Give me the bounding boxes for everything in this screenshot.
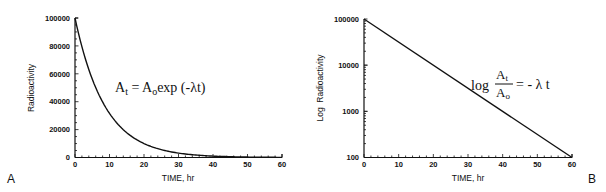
y-tick-label: 0 bbox=[66, 153, 70, 162]
x-tick-label: 40 bbox=[209, 160, 217, 169]
chart-b: 100 1000 10000 100000 0 10 20 30 40 50 6… bbox=[315, 15, 596, 187]
x-tick-label: 50 bbox=[533, 160, 541, 169]
y-axis-title-b: Log Radioactivity bbox=[315, 54, 325, 122]
x-axis-title-b: TIME, hr bbox=[452, 173, 485, 183]
y-tick-label: 100000 bbox=[45, 14, 70, 23]
svg-text:log: log bbox=[471, 78, 489, 93]
y-tick-label: 60000 bbox=[49, 70, 70, 79]
x-tick-label: 10 bbox=[395, 160, 403, 169]
x-tick-label: 60 bbox=[278, 160, 286, 169]
y-tick-label: 100000 bbox=[334, 15, 359, 24]
x-tick-label: 30 bbox=[174, 160, 182, 169]
y-tick-labels-a: 0 20000 40000 60000 80000 100000 bbox=[45, 14, 70, 162]
y-tick-label: 20000 bbox=[49, 125, 70, 134]
panel-label-a: A bbox=[7, 172, 15, 186]
x-tick-label: 50 bbox=[243, 160, 251, 169]
svg-text:At: At bbox=[496, 67, 508, 83]
y-tick-label: 1000 bbox=[342, 107, 359, 116]
x-tick-label: 0 bbox=[73, 160, 77, 169]
x-tick-label: 20 bbox=[140, 160, 148, 169]
x-tick-labels-a: 0 10 20 30 40 50 60 bbox=[73, 160, 286, 169]
panel-label-b: B bbox=[588, 172, 596, 186]
y-tick-label: 10000 bbox=[338, 61, 359, 70]
chart-a: 0 20000 40000 60000 80000 100000 0 10 20… bbox=[7, 14, 286, 186]
y-axis-title-a: Radioactivity bbox=[26, 63, 36, 112]
equation-b: log At Ao = - λ t bbox=[471, 67, 550, 101]
equation-a: At = Aoexp (-λt) bbox=[115, 80, 206, 97]
svg-text:Ao: Ao bbox=[496, 85, 510, 101]
x-tick-label: 30 bbox=[464, 160, 472, 169]
x-tick-label: 60 bbox=[568, 160, 576, 169]
figure: 0 20000 40000 60000 80000 100000 0 10 20… bbox=[0, 0, 606, 192]
x-tick-label: 10 bbox=[105, 160, 113, 169]
x-tick-label: 40 bbox=[499, 160, 507, 169]
x-tick-labels-b: 0 10 20 30 40 50 60 bbox=[362, 160, 576, 169]
y-tick-labels-b: 100 1000 10000 100000 bbox=[334, 15, 359, 163]
svg-text:= - λ t: = - λ t bbox=[516, 77, 550, 92]
y-tick-label: 40000 bbox=[49, 97, 70, 106]
y-tick-label: 100 bbox=[346, 153, 359, 162]
x-tick-label: 20 bbox=[429, 160, 437, 169]
x-axis-title-a: TIME, hr bbox=[162, 173, 195, 183]
x-tick-label: 0 bbox=[362, 160, 366, 169]
y-tick-label: 80000 bbox=[49, 42, 70, 51]
